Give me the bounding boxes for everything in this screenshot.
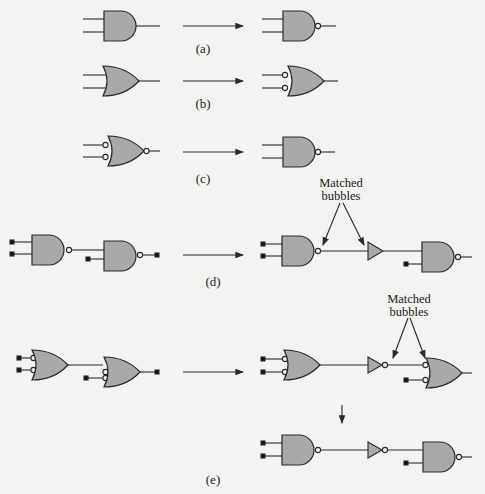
panel-a	[83, 11, 336, 41]
panel-d	[10, 203, 472, 272]
matched-bubbles-e-line1: Matched	[387, 292, 431, 306]
matched-bubbles-d-line2: bubbles	[322, 189, 361, 203]
label-a: (a)	[196, 41, 210, 56]
bubbled-or-gate	[288, 66, 324, 96]
logic-diagram: (a) (b) (c) (d) (e) Matched bubbles Matc…	[0, 0, 485, 494]
buffer	[368, 242, 383, 260]
or-gate	[103, 66, 139, 96]
nand-gate	[283, 11, 315, 41]
label-c: (c)	[196, 171, 210, 186]
label-b: (b)	[195, 96, 210, 111]
inverter	[368, 357, 382, 373]
and-gate	[104, 11, 136, 41]
label-e: (e)	[206, 472, 220, 487]
output-bubble	[315, 23, 320, 28]
panel-b	[83, 66, 338, 96]
panel-e	[17, 318, 472, 472]
matched-bubbles-d-line1: Matched	[319, 176, 363, 190]
panel-c	[83, 136, 335, 167]
matched-bubbles-e-line2: bubbles	[390, 305, 429, 319]
label-d: (d)	[205, 274, 220, 289]
